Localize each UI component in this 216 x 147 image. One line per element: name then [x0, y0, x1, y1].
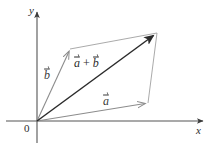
sum-a-symbol: a [74, 57, 80, 69]
vector-a-label: a [103, 95, 109, 107]
vector-a-symbol: a [103, 95, 109, 107]
figure-canvas [0, 0, 216, 147]
y-axis-label: y [29, 5, 34, 16]
axis-group [6, 12, 203, 143]
origin-label: 0 [24, 123, 30, 134]
x-axis-label: x [196, 125, 201, 136]
vector-a-line [37, 104, 145, 122]
sum-b-letter: b [93, 56, 99, 70]
vector-sum-label: a + b [74, 57, 99, 69]
vector-a-plus-b-line [37, 36, 154, 122]
vector-b-label: b [44, 69, 50, 81]
vector-b-symbol: b [44, 69, 50, 81]
sum-plus-sign: + [80, 56, 93, 70]
parallelogram-side-right [148, 33, 157, 103]
vector-a-letter: a [103, 94, 109, 108]
sum-b-symbol: b [93, 57, 99, 69]
sum-a-letter: a [74, 56, 80, 70]
vector-addition-figure: y x 0 b a a [0, 0, 216, 147]
parallelogram-side-top [70, 33, 157, 49]
vector-b-letter: b [44, 68, 50, 82]
vector-b-line [37, 52, 69, 122]
